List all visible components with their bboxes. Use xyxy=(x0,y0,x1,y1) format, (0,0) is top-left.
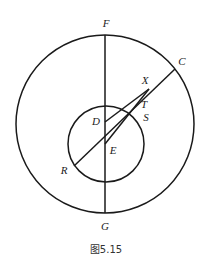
label-r: R xyxy=(60,164,68,176)
inner-circle xyxy=(68,106,144,182)
label-s: S xyxy=(143,111,149,123)
figure-caption: 图5.15 xyxy=(90,244,122,255)
label-e: E xyxy=(109,144,117,156)
label-x: X xyxy=(141,74,150,86)
label-f: F xyxy=(102,17,110,29)
label-t: T xyxy=(141,98,148,110)
geometry-figure: F C X T D S E R G 图5.15 xyxy=(0,0,205,263)
segment-rc xyxy=(74,69,175,166)
label-g: G xyxy=(101,220,109,232)
label-c: C xyxy=(178,55,186,67)
label-d: D xyxy=(91,115,100,127)
